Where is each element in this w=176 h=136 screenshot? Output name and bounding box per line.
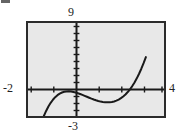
graph-figure: 9 -2 4 -3: [0, 0, 176, 136]
y-axis-min-label: -3: [68, 120, 78, 132]
y-axis-max-label: 9: [68, 6, 74, 18]
scan-artifact-mark: [1, 0, 10, 3]
plot-canvas: [28, 23, 164, 116]
x-axis-min-label: -2: [3, 82, 13, 94]
plot-frame: [26, 21, 166, 118]
curve-path: [44, 57, 146, 116]
x-axis-max-label: 4: [169, 82, 175, 94]
